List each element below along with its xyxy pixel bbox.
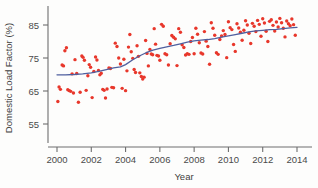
- data-point: [288, 24, 291, 27]
- y-axis-group: 55657585: [28, 6, 48, 143]
- data-point: [78, 91, 81, 94]
- data-point: [198, 41, 201, 44]
- data-point: [128, 33, 131, 36]
- data-point: [179, 31, 182, 34]
- data-point: [211, 27, 214, 30]
- data-point: [230, 28, 233, 31]
- data-point: [201, 52, 204, 55]
- data-point: [115, 45, 118, 48]
- data-point: [65, 46, 68, 49]
- data-point: [95, 58, 98, 61]
- x-axis-group: 20002002200420062008201020122014: [46, 147, 312, 165]
- data-point: [278, 17, 281, 20]
- data-point: [144, 39, 147, 42]
- data-point: [234, 50, 237, 53]
- data-point: [63, 49, 66, 52]
- data-point: [158, 59, 161, 62]
- x-tick-label: 2006: [149, 154, 170, 165]
- data-point: [112, 86, 115, 89]
- data-point: [162, 25, 165, 28]
- data-point: [120, 87, 123, 90]
- data-point: [114, 41, 117, 44]
- data-point: [187, 53, 190, 56]
- data-point: [122, 58, 125, 61]
- data-point: [191, 36, 194, 39]
- data-point: [135, 44, 138, 47]
- x-tick-label: 2004: [115, 154, 136, 165]
- data-point: [213, 34, 216, 37]
- data-point: [124, 89, 127, 92]
- data-point: [216, 53, 219, 56]
- data-point: [86, 74, 89, 77]
- x-tick-label: 2014: [286, 154, 307, 165]
- data-point: [102, 89, 105, 92]
- scatterplot-svg: 55657585 2000200220042006200820102012201…: [0, 0, 318, 188]
- x-axis-title: Year: [174, 171, 193, 182]
- x-tick-label: 2008: [184, 154, 205, 165]
- data-point: [165, 53, 168, 56]
- data-point: [127, 45, 130, 48]
- data-point: [125, 69, 128, 72]
- data-point: [244, 19, 247, 22]
- data-point: [246, 23, 249, 26]
- y-tick-label: 75: [28, 53, 39, 64]
- y-tick-label: 65: [28, 86, 39, 97]
- data-point: [73, 58, 76, 61]
- data-point: [157, 54, 160, 57]
- data-point: [266, 40, 269, 43]
- data-point: [153, 27, 156, 30]
- data-point: [90, 96, 93, 99]
- data-point: [280, 21, 283, 24]
- data-point: [62, 64, 65, 67]
- data-point: [154, 42, 157, 45]
- data-point: [100, 71, 103, 74]
- x-tick-label: 2012: [252, 154, 273, 165]
- data-point: [210, 21, 213, 24]
- data-point: [256, 19, 259, 22]
- data-point: [242, 29, 245, 32]
- data-point: [81, 56, 84, 59]
- data-point: [232, 43, 235, 46]
- data-point: [134, 71, 137, 74]
- data-point: [258, 23, 261, 26]
- x-axis-ticks: 20002002200420062008201020122014: [46, 147, 307, 165]
- data-point: [222, 29, 225, 32]
- y-axis-ticks: 55657585: [28, 20, 48, 130]
- data-point: [72, 91, 75, 94]
- data-point: [206, 45, 209, 48]
- data-point: [119, 62, 122, 65]
- data-point: [235, 22, 238, 25]
- data-point: [196, 33, 199, 36]
- data-point: [252, 25, 255, 28]
- x-tick-label: 2002: [81, 154, 102, 165]
- data-point: [89, 66, 92, 69]
- data-point: [130, 50, 133, 53]
- data-point: [240, 38, 243, 41]
- data-point: [294, 34, 297, 37]
- data-point: [192, 52, 195, 55]
- data-point: [237, 26, 240, 29]
- data-points-layer: [56, 17, 297, 104]
- data-point: [275, 20, 278, 23]
- data-point: [142, 75, 145, 78]
- data-point: [151, 53, 154, 56]
- data-point: [94, 55, 97, 58]
- data-point: [283, 35, 286, 38]
- data-point: [83, 59, 86, 62]
- data-point: [168, 42, 171, 45]
- smooth-trend-line: [57, 27, 297, 75]
- data-point: [56, 100, 59, 103]
- data-point: [177, 27, 180, 30]
- data-point: [174, 37, 177, 40]
- y-tick-label: 85: [28, 20, 39, 31]
- data-point: [225, 56, 228, 59]
- data-point: [104, 96, 107, 99]
- data-point: [194, 27, 197, 30]
- data-point: [227, 20, 230, 23]
- x-tick-label: 2000: [46, 154, 67, 165]
- data-point: [276, 25, 279, 28]
- data-point: [263, 21, 266, 24]
- data-point: [251, 22, 254, 25]
- data-point: [105, 87, 108, 90]
- data-point: [147, 64, 150, 67]
